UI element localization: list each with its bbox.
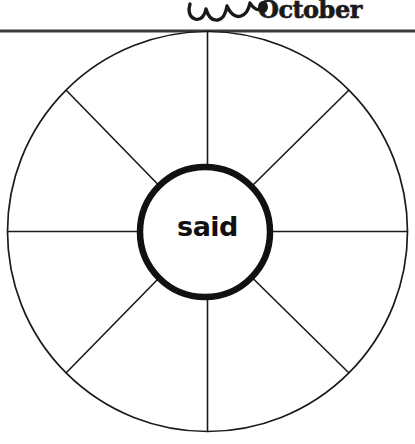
worksheet-page: said October xyxy=(0,0,415,444)
month-label: October xyxy=(258,0,362,23)
hub-word-label: said xyxy=(0,212,415,242)
